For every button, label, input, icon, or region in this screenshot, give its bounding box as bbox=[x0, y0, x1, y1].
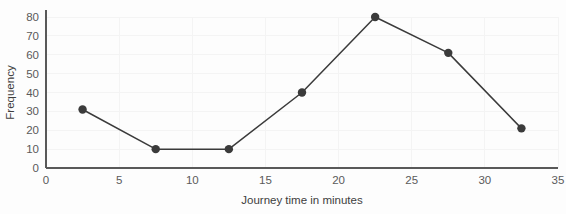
y-tick-label: 80 bbox=[26, 11, 39, 23]
y-tick-label: 10 bbox=[26, 143, 39, 155]
data-point bbox=[78, 105, 86, 113]
x-tick-label: 25 bbox=[405, 174, 418, 186]
y-tick-label: 20 bbox=[26, 124, 39, 136]
y-tick-label: 30 bbox=[26, 105, 39, 117]
series-line bbox=[83, 17, 522, 149]
frequency-polygon-chart: 01020304050607080 05101520253035 Frequen… bbox=[0, 0, 566, 214]
x-tick-label: 10 bbox=[186, 174, 199, 186]
x-tick-label: 15 bbox=[259, 174, 272, 186]
data-point bbox=[371, 13, 379, 21]
data-point bbox=[517, 124, 525, 132]
x-tick-label: 30 bbox=[478, 174, 491, 186]
y-tick-label: 70 bbox=[26, 30, 39, 42]
data-point bbox=[225, 145, 233, 153]
x-tick-label: 0 bbox=[43, 174, 49, 186]
data-point bbox=[298, 88, 306, 96]
x-axis-tick-labels: 05101520253035 bbox=[43, 174, 565, 186]
x-tick-label: 5 bbox=[116, 174, 122, 186]
x-tick-label: 35 bbox=[552, 174, 565, 186]
data-point bbox=[444, 49, 452, 57]
x-tick-label: 20 bbox=[332, 174, 345, 186]
data-series-frequency bbox=[78, 13, 525, 154]
series-markers bbox=[78, 13, 525, 154]
y-axis-title: Frequency bbox=[4, 65, 16, 120]
y-axis-tick-labels: 01020304050607080 bbox=[26, 11, 39, 174]
y-tick-label: 60 bbox=[26, 49, 39, 61]
data-point bbox=[152, 145, 160, 153]
chart-canvas: 01020304050607080 05101520253035 Frequen… bbox=[0, 0, 566, 214]
y-tick-label: 50 bbox=[26, 68, 39, 80]
y-tick-label: 0 bbox=[33, 162, 39, 174]
y-tick-label: 40 bbox=[26, 87, 39, 99]
x-axis-title: Journey time in minutes bbox=[241, 194, 363, 206]
